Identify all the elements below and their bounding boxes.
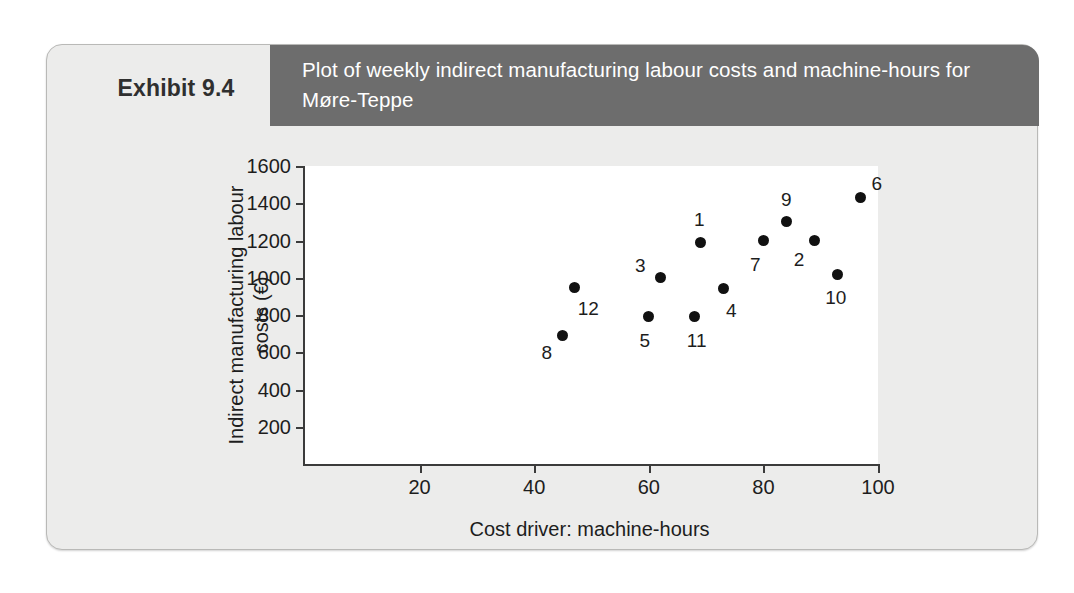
y-axis-tick-label: 1600 [247, 155, 292, 178]
plot-frame: 2004006008001000120014001600204060801008… [303, 166, 878, 466]
y-axis-tick-label: 1200 [247, 229, 292, 252]
y-axis-tick-label: 800 [258, 304, 291, 327]
chart-area: Indirect manufacturing labour costs (€) … [47, 126, 1039, 550]
data-point [655, 272, 666, 283]
data-point [758, 235, 769, 246]
data-point [781, 216, 792, 227]
x-axis-tick [878, 464, 880, 473]
y-axis-tick-label: 600 [258, 341, 291, 364]
y-axis-tick-label: 400 [258, 378, 291, 401]
x-axis-tick [763, 464, 765, 473]
data-point-label: 3 [635, 255, 646, 277]
y-axis-tick [296, 315, 305, 317]
data-point-label: 7 [750, 254, 761, 276]
y-axis-tick [296, 166, 305, 168]
data-point [569, 282, 580, 293]
x-axis-tick-label: 40 [523, 476, 545, 499]
data-point-label: 10 [825, 287, 846, 309]
data-point-label: 9 [781, 189, 792, 211]
x-axis-tick-label: 100 [861, 476, 894, 499]
data-point-label: 6 [872, 173, 883, 195]
data-point [695, 237, 706, 248]
data-point [832, 269, 843, 280]
screenshot-root: Exhibit 9.4 Plot of weekly indirect manu… [0, 0, 1074, 593]
x-axis-tick-label: 80 [752, 476, 774, 499]
y-axis-tick-label: 1400 [247, 192, 292, 215]
data-point [689, 311, 700, 322]
exhibit-number-label: Exhibit 9.4 [71, 61, 281, 115]
x-axis-tick-label: 20 [408, 476, 430, 499]
data-point-label: 11 [687, 330, 707, 352]
exhibit-title: Plot of weekly indirect manufacturing la… [302, 55, 1021, 115]
data-point-label: 1 [694, 209, 705, 231]
y-axis-tick [296, 390, 305, 392]
exhibit-panel: Exhibit 9.4 Plot of weekly indirect manu… [46, 44, 1038, 550]
y-axis-tick [296, 241, 305, 243]
x-axis-tick [649, 464, 651, 473]
data-point [557, 330, 568, 341]
data-point-label: 2 [794, 249, 805, 271]
y-axis-tick [296, 427, 305, 429]
x-axis-tick [420, 464, 422, 473]
data-point-label: 4 [726, 300, 737, 322]
y-axis-tick [296, 352, 305, 354]
exhibit-title-bar: Plot of weekly indirect manufacturing la… [270, 45, 1039, 126]
data-point-label: 5 [640, 330, 651, 352]
data-point [809, 235, 820, 246]
data-point-label: 8 [542, 342, 553, 364]
x-axis-title: Cost driver: machine-hours [303, 518, 876, 541]
data-point-label: 12 [578, 298, 599, 320]
data-point [855, 192, 866, 203]
data-point [718, 283, 729, 294]
y-axis-tick [296, 203, 305, 205]
data-point [643, 311, 654, 322]
x-axis-tick [534, 464, 536, 473]
x-axis-tick-label: 60 [638, 476, 660, 499]
y-axis-tick-label: 1000 [247, 266, 292, 289]
y-axis-tick-label: 200 [258, 415, 291, 438]
y-axis-tick [296, 278, 305, 280]
